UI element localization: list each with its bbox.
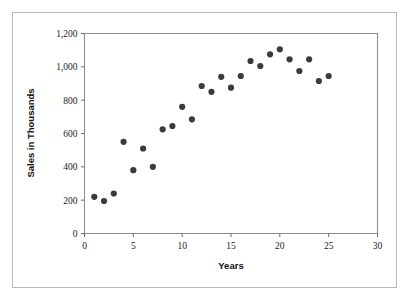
x-tick-label: 30 bbox=[373, 241, 383, 251]
x-tick-label: 20 bbox=[275, 241, 285, 251]
y-tick-label: 1,000 bbox=[56, 62, 78, 72]
y-tick-label: 400 bbox=[63, 162, 78, 172]
data-point bbox=[111, 190, 117, 196]
data-point bbox=[150, 164, 156, 170]
y-tick-label: 1,200 bbox=[56, 29, 78, 39]
data-point bbox=[130, 167, 136, 173]
data-point bbox=[101, 198, 107, 204]
plot-frame bbox=[85, 34, 378, 234]
x-axis-title: Years bbox=[218, 260, 243, 271]
data-point bbox=[326, 73, 332, 79]
plot-frame-box bbox=[85, 34, 378, 234]
data-point-markers bbox=[91, 46, 332, 204]
data-point bbox=[316, 78, 322, 84]
y-tick-label: 800 bbox=[63, 96, 78, 106]
plot-canvas: 02004006008001,0001,200 051015202530 Yea… bbox=[0, 0, 413, 306]
data-point bbox=[247, 58, 253, 64]
x-tick-label: 25 bbox=[324, 241, 334, 251]
data-point bbox=[169, 123, 175, 129]
data-point bbox=[228, 85, 234, 91]
scatter-plot-figure: 02004006008001,0001,200 051015202530 Yea… bbox=[0, 0, 413, 306]
data-point bbox=[296, 68, 302, 74]
x-tick-label: 15 bbox=[226, 241, 236, 251]
chart-svg: 02004006008001,0001,200 051015202530 Yea… bbox=[0, 0, 413, 306]
data-point bbox=[179, 104, 185, 110]
data-point bbox=[306, 56, 312, 62]
data-point bbox=[257, 63, 263, 69]
data-point bbox=[277, 46, 283, 52]
data-point bbox=[208, 89, 214, 95]
data-point bbox=[199, 83, 205, 89]
y-tick-label: 200 bbox=[63, 196, 78, 206]
x-tick-label: 5 bbox=[131, 241, 136, 251]
data-point bbox=[140, 145, 146, 151]
data-point bbox=[189, 116, 195, 122]
y-axis-title: Sales in Thousands bbox=[25, 88, 36, 177]
data-point bbox=[91, 194, 97, 200]
x-tick-label: 10 bbox=[177, 241, 187, 251]
x-tick-label: 0 bbox=[82, 241, 87, 251]
data-point bbox=[120, 139, 126, 145]
data-point bbox=[267, 51, 273, 57]
data-point bbox=[160, 126, 166, 132]
y-tick-label: 0 bbox=[73, 229, 78, 239]
data-point bbox=[287, 56, 293, 62]
data-point bbox=[238, 73, 244, 79]
y-tick-label: 600 bbox=[63, 129, 78, 139]
x-axis-ticks: 051015202530 bbox=[82, 234, 382, 251]
y-axis-ticks: 02004006008001,0001,200 bbox=[56, 29, 84, 239]
data-point bbox=[218, 74, 224, 80]
